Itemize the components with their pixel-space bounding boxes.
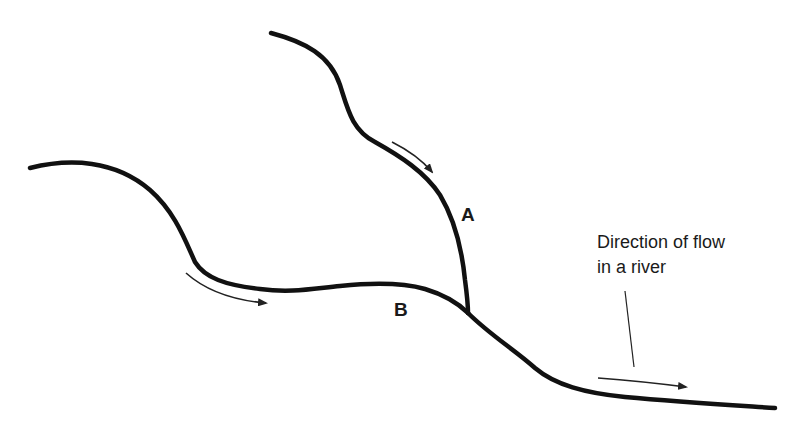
arrow-main-icon: [598, 378, 686, 387]
diagram-canvas: A B Direction of flow in a river: [0, 0, 790, 423]
river-a: [271, 33, 468, 313]
main-river: [468, 313, 775, 408]
leader-line: [625, 291, 634, 367]
river-diagram-svg: [0, 0, 790, 423]
label-a: A: [461, 204, 475, 226]
caption-line-1: Direction of flow: [597, 230, 725, 254]
caption-line-2: in a river: [597, 255, 666, 279]
river-b: [30, 163, 468, 313]
label-b: B: [394, 299, 408, 321]
